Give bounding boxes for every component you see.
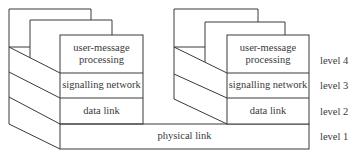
level-1-label: level 1: [320, 131, 348, 142]
right-data-link-label: data link: [227, 105, 309, 117]
right-l4-line2: processing: [227, 54, 309, 66]
level-2-label: level 2: [320, 106, 348, 117]
left-signalling-network-label: signalling network: [60, 79, 143, 91]
left-data-link-label: data link: [60, 105, 143, 117]
right-signalling-network-label: signalling network: [227, 79, 309, 91]
right-l4-line1: user-message: [227, 42, 309, 54]
level-3-label: level 3: [320, 80, 348, 91]
left-user-message-processing-label: user-message processing: [60, 42, 143, 66]
level-4-label: level 4: [320, 55, 348, 66]
left-l4-line2: processing: [60, 54, 143, 66]
right-user-message-processing-label: user-message processing: [227, 42, 309, 66]
physical-link-label: physical link: [60, 130, 309, 142]
left-l4-line1: user-message: [60, 42, 143, 54]
